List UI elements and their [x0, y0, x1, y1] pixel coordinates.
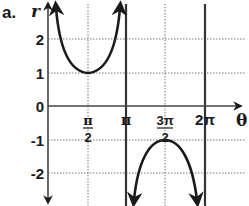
x-tick-pi-over-2-num: π [83, 113, 93, 128]
csc-graph: a. r θ 2 1 0 -1 -2 π 2 π 3π 2 2π [0, 0, 249, 206]
x-tick-3pi-over-2-num: 3π [156, 113, 173, 128]
grid [48, 4, 245, 206]
x-tick-pi-over-2-den: 2 [84, 130, 91, 145]
x-axis-label: θ [236, 110, 247, 130]
y-tick-2: 2 [36, 31, 44, 48]
y-axis-label: r [31, 1, 41, 21]
y-tick-1: 1 [36, 65, 44, 82]
x-tick-2pi: 2π [195, 111, 215, 128]
y-tick-neg1: -1 [31, 132, 44, 149]
y-tick-0: 0 [36, 98, 44, 115]
x-tick-3pi-over-2-den: 2 [161, 130, 168, 145]
x-tick-pi: π [121, 112, 131, 128]
panel-label: a. [2, 3, 16, 22]
y-tick-neg2: -2 [31, 165, 44, 182]
